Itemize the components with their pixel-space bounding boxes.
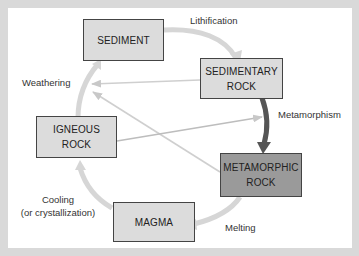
node-sediment-label: SEDIMENT	[97, 33, 149, 48]
node-igneous-rock-line1: IGNEOUS	[53, 122, 100, 137]
node-sediment: SEDIMENT	[83, 19, 164, 61]
node-magma: MAGMA	[113, 202, 195, 242]
node-metamorphic-rock-line1: METAMORPHIC	[223, 160, 298, 175]
node-metamorphic-rock: METAMORPHIC ROCK	[220, 153, 302, 197]
node-sedimentary-rock: SEDIMENTARY ROCK	[200, 58, 283, 99]
melting-arrow	[194, 197, 240, 224]
metamorphism-arrow	[262, 98, 267, 144]
node-sedimentary-rock-line2: ROCK	[227, 79, 256, 94]
node-metamorphic-rock-line2: ROCK	[246, 175, 275, 190]
label-metamorphism: Metamorphism	[278, 108, 341, 121]
label-cooling: Cooling (or crystallization)	[15, 193, 101, 219]
label-cooling-line2: (or crystallization)	[15, 206, 101, 219]
node-magma-label: MAGMA	[135, 215, 173, 230]
node-sedimentary-rock-line1: SEDIMENTARY	[205, 64, 277, 79]
node-igneous-rock: IGNEOUS ROCK	[36, 116, 117, 158]
label-lithification: Lithification	[190, 14, 238, 27]
sedimentary-weathering-arrow	[92, 80, 200, 84]
lithification-arrow	[164, 30, 236, 58]
weathering-arrow	[78, 64, 98, 118]
node-igneous-rock-line2: ROCK	[62, 137, 91, 152]
label-weathering: Weathering	[22, 76, 70, 89]
label-melting: Melting	[225, 221, 256, 234]
label-cooling-line1: Cooling	[15, 193, 101, 206]
